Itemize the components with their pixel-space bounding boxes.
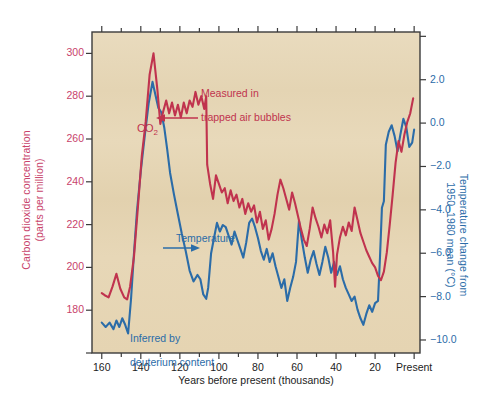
temperature-method-note-line1: Inferred by [130, 332, 180, 344]
top-axis-ticks [102, 26, 414, 32]
right-tick-label: −6.0 [430, 246, 470, 258]
left-tick-label: 200 [40, 260, 84, 272]
right-tick-label: −10.0 [430, 333, 470, 345]
co2-series-label-subscript: 2 [154, 128, 158, 137]
co2-measurement-note-line1: Measured in [201, 87, 259, 99]
right-tick-label: 2.0 [430, 73, 470, 85]
temperature-series-label: Temperature [176, 232, 235, 244]
right-axis-ticks [420, 36, 426, 340]
right-axis-title-line2: 1950–1980 mean (°C) [446, 182, 458, 287]
left-axis-ticks [86, 53, 92, 353]
temperature-method-note: Inferred by deuterium content [130, 320, 214, 368]
right-tick-label: −2.0 [430, 159, 470, 171]
right-axis-title: Temperature change from 1950–1980 mean (… [445, 120, 470, 350]
left-tick-label: 280 [40, 89, 84, 101]
bottom-tick-label: Present [384, 361, 444, 373]
right-axis-title-line1: Temperature change from [458, 174, 470, 297]
chart-canvas [0, 0, 500, 398]
right-tick-label: −4.0 [430, 203, 470, 215]
co2-temperature-chart: Carbon dioxide concentration (parts per … [0, 0, 500, 398]
co2-series-label: CO2 [137, 110, 158, 139]
temperature-method-note-line2: deuterium content [130, 356, 214, 368]
co2-series-label-text: CO [137, 122, 154, 134]
left-tick-label: 240 [40, 175, 84, 187]
left-tick-label: 220 [40, 218, 84, 230]
left-axis-title-line1: Carbon dioxide concentration [20, 130, 32, 269]
bottom-axis-title: Years before present (thousands) [92, 374, 420, 386]
co2-measurement-note-line2: trapped air bubbles [201, 111, 291, 123]
right-tick-label: 0.0 [430, 116, 470, 128]
left-tick-label: 260 [40, 132, 84, 144]
left-axis-title: Carbon dioxide concentration (parts per … [20, 70, 45, 330]
left-tick-label: 180 [40, 303, 84, 315]
right-tick-label: −8.0 [430, 290, 470, 302]
left-tick-label: 300 [40, 46, 84, 58]
co2-measurement-note: Measured in trapped air bubbles [201, 75, 291, 123]
